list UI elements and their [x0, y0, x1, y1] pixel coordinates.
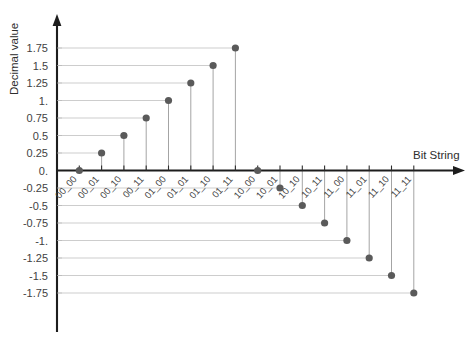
x-tick-label: 10_01 — [254, 173, 280, 200]
data-point — [343, 237, 350, 244]
x-tick-label: 00_11 — [120, 173, 145, 199]
data-point — [187, 79, 194, 86]
y-tick-label: 0. — [39, 165, 48, 177]
y-axis — [53, 14, 62, 332]
stem-plot-svg: 1.751.51.251.0.750.50.250.-0.25-0.5-0.75… — [0, 0, 476, 338]
x-axis-title: Bit String — [413, 149, 460, 161]
data-point — [120, 132, 127, 139]
x-axis-arrow-icon — [453, 166, 465, 175]
y-tick-label: 0.5 — [33, 130, 48, 142]
y-axis-arrow-icon — [53, 14, 62, 26]
y-tick-label: -0.75 — [23, 217, 48, 229]
y-tick-label: 1.75 — [27, 42, 48, 54]
x-tick-label: 01_10 — [187, 173, 213, 200]
data-point — [321, 219, 328, 226]
y-tick-label: 1.25 — [27, 77, 48, 89]
data-point — [210, 62, 217, 69]
data-point — [388, 272, 395, 279]
x-tick-label: 01_01 — [164, 173, 190, 200]
data-point — [143, 114, 150, 121]
y-tick-label: 0.25 — [27, 147, 48, 159]
y-tick-label: -1. — [35, 235, 48, 247]
y-tick-label-group: 1.751.51.251.0.750.50.250.-0.25-0.5-0.75… — [23, 42, 48, 299]
x-tick-label-group: 00_0000_0100_1000_1101_0001_0101_1001_11… — [53, 173, 413, 200]
x-tick-label: 10_00 — [231, 173, 257, 200]
x-tick-label: 11_11 — [388, 173, 413, 199]
data-point — [98, 149, 105, 156]
y-tick-label: 1. — [39, 95, 48, 107]
chart-container: 1.751.51.251.0.750.50.250.-0.25-0.5-0.75… — [0, 0, 476, 338]
x-tick-label: 00_01 — [75, 173, 101, 200]
data-point — [410, 289, 417, 296]
y-tick-label: -0.5 — [29, 200, 48, 212]
data-point — [366, 254, 373, 261]
y-tick-label: -1.25 — [23, 252, 48, 264]
data-point — [232, 44, 239, 51]
data-point — [76, 167, 83, 174]
y-axis-title: Decimal value — [8, 23, 20, 95]
data-point — [276, 184, 283, 191]
y-tick-label: -0.25 — [23, 182, 48, 194]
y-tick-label: -1.5 — [29, 270, 48, 282]
data-point — [254, 167, 261, 174]
x-tick-label: 00_10 — [98, 173, 124, 200]
data-point — [299, 202, 306, 209]
x-tick-label: 01_00 — [142, 173, 168, 200]
y-tick-label: 1.5 — [33, 60, 48, 72]
data-point — [165, 97, 172, 104]
y-tick-label: 0.75 — [27, 112, 48, 124]
x-tick-label: 01_11 — [210, 173, 235, 199]
y-tick-label: -1.75 — [23, 287, 48, 299]
